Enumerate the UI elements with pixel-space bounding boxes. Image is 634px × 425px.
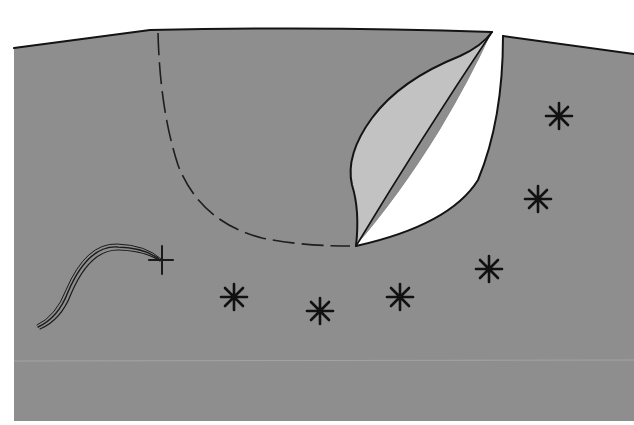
star-stitch-icon [546,103,572,129]
star-stitch-icon [476,256,502,282]
diagram-svg [0,0,634,425]
star-stitch-icon [387,284,413,310]
star-stitch-icon [221,284,247,310]
star-stitch-icon [525,186,551,212]
fabric-panel [14,28,634,421]
diagram-canvas: fabric with bound slit opening and facin… [0,0,634,425]
star-stitch-icon [307,298,333,324]
